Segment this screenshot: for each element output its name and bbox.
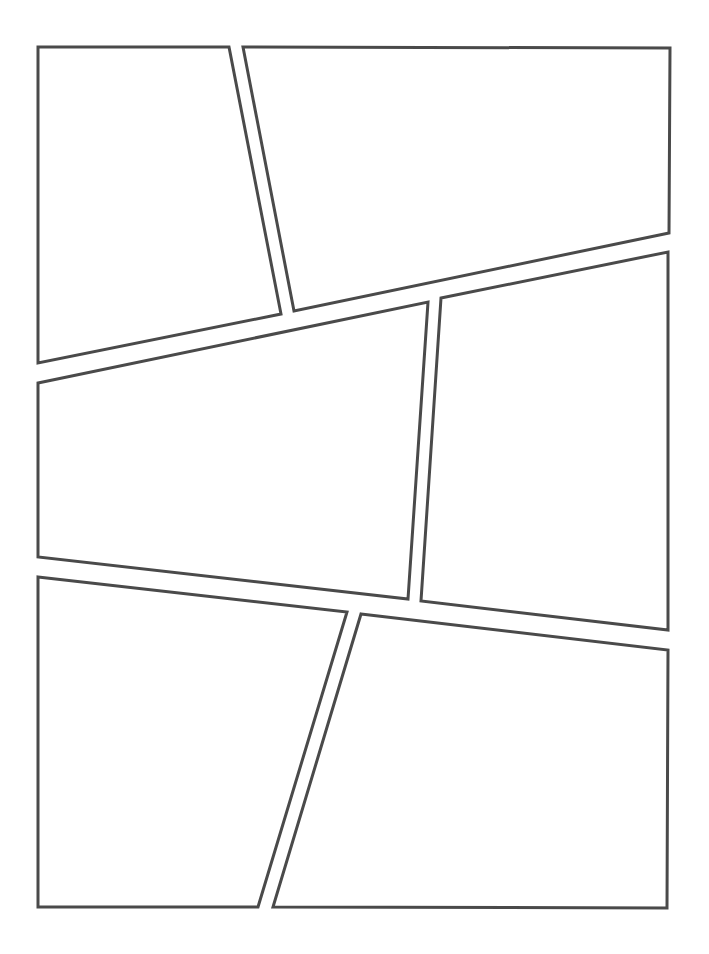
comic-page-template [0, 0, 709, 954]
panel-4[interactable] [421, 252, 668, 630]
panel-layout [0, 0, 709, 954]
panel-1[interactable] [38, 47, 281, 363]
